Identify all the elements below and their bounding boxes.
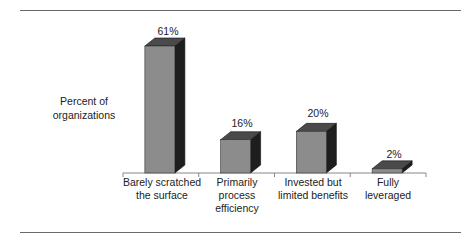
category-label-line: Barely scratched [122,176,202,189]
category-label-line: Invested but [273,176,353,189]
category-label-line: the surface [122,189,202,202]
category-label-2: Invested but limited benefits [273,176,353,202]
category-label-line: Fully [348,176,428,189]
category-label-line: process [197,189,277,202]
bar-front [372,169,402,173]
category-label-line: leveraged [348,189,428,202]
y-axis-label-line: organizations [36,108,132,122]
value-label-3: 2% [374,148,414,160]
bar-front [145,46,175,173]
y-axis-label-line: Percent of [36,94,132,108]
category-label-line: efficiency [197,202,277,215]
bar-side [175,38,185,173]
category-label-line: Primarily [197,176,277,189]
bar-side [326,123,336,173]
bar-front [221,140,251,173]
value-label-0: 61% [148,25,188,37]
category-label-0: Barely scratched the surface [122,176,202,202]
category-label-3: Fully leveraged [348,176,428,202]
category-label-line: limited benefits [273,189,353,202]
y-axis-label: Percent of organizations [36,94,132,122]
category-label-1: Primarily process efficiency [197,176,277,215]
value-label-2: 20% [298,107,338,119]
value-label-1: 16% [222,117,262,129]
bar-front [296,131,326,173]
